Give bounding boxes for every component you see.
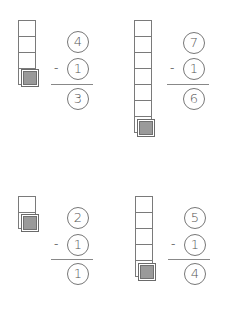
removed-block xyxy=(21,69,39,87)
removed-block xyxy=(137,119,155,137)
removed-block xyxy=(138,263,156,281)
minuend-circle: 5 xyxy=(184,207,206,229)
minuend-circle: 4 xyxy=(67,31,89,53)
block-cell xyxy=(134,52,152,68)
problem-4: 5 - 1 4 xyxy=(117,156,234,313)
block-cell xyxy=(135,228,153,244)
equals-line xyxy=(167,84,209,85)
difference-circle: 6 xyxy=(183,88,205,110)
block-cell xyxy=(134,84,152,100)
problem-3: 2 - 1 1 xyxy=(0,156,117,313)
difference-circle: 3 xyxy=(67,88,89,110)
block-cell xyxy=(134,20,152,36)
problem-2: 7 - 1 6 xyxy=(117,0,234,156)
subtrahend-circle: 1 xyxy=(67,58,89,80)
minuend-circle: 7 xyxy=(183,32,205,54)
problem-1: 4 - 1 3 xyxy=(0,0,117,156)
block-cell xyxy=(134,100,152,116)
block-cell xyxy=(18,36,36,52)
block-cell xyxy=(18,52,36,68)
minus-sign: - xyxy=(54,238,58,250)
difference-circle: 1 xyxy=(67,263,89,285)
block-cell xyxy=(134,36,152,52)
subtrahend-circle: 1 xyxy=(67,234,89,256)
equals-line xyxy=(168,259,210,260)
difference-circle: 4 xyxy=(184,263,206,285)
block-cell xyxy=(135,244,153,260)
removed-block xyxy=(21,214,39,232)
block-cell xyxy=(135,196,153,212)
equals-line xyxy=(51,84,93,85)
minus-sign: - xyxy=(170,62,174,74)
block-cell xyxy=(18,20,36,36)
block-cell xyxy=(134,68,152,84)
subtrahend-circle: 1 xyxy=(183,58,205,80)
subtrahend-circle: 1 xyxy=(184,234,206,256)
minus-sign: - xyxy=(171,238,175,250)
minus-sign: - xyxy=(54,62,58,74)
minuend-circle: 2 xyxy=(67,207,89,229)
equals-line xyxy=(51,259,93,260)
block-cell xyxy=(135,212,153,228)
block-cell xyxy=(18,196,36,212)
